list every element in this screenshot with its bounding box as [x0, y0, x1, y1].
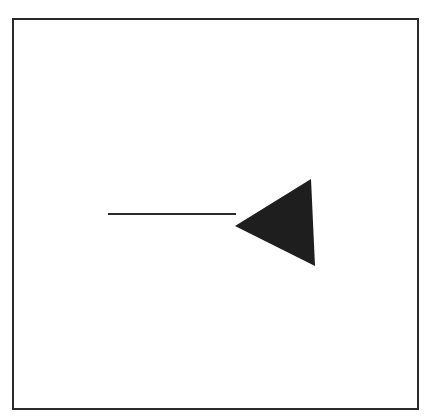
left-pointing-triangle-icon [235, 179, 315, 266]
diagram-canvas [0, 0, 431, 420]
